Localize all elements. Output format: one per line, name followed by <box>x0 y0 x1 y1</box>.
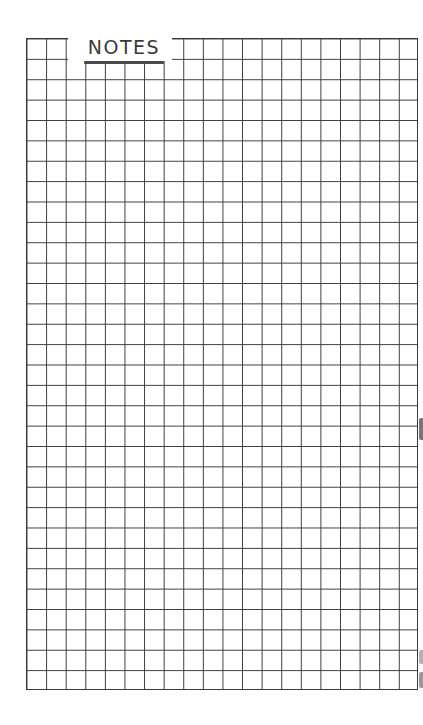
notes-page: NOTES <box>0 0 423 725</box>
title-underline <box>84 61 164 64</box>
page-title: NOTES <box>82 37 166 57</box>
scan-artifact-mark <box>419 650 423 664</box>
scan-artifact-mark <box>419 418 423 440</box>
graph-paper-grid <box>26 38 418 690</box>
scan-artifact-mark <box>419 672 423 688</box>
